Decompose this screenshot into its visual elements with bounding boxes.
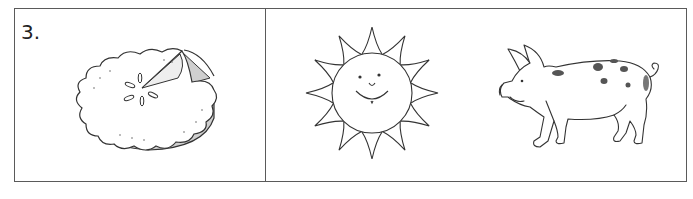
- pig-icon: [496, 41, 666, 153]
- pie-icon: [64, 38, 224, 158]
- exercise-number: 3.: [21, 20, 40, 44]
- left-panel: 3.: [14, 8, 265, 182]
- sun-icon: [302, 23, 442, 163]
- right-panel: [266, 8, 687, 182]
